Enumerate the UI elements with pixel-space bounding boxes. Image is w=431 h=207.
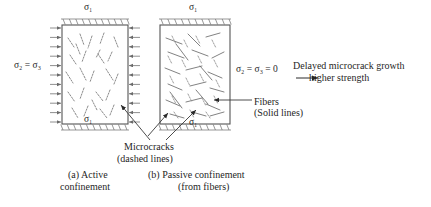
load-tick bbox=[206, 125, 208, 131]
load-tick bbox=[86, 125, 88, 131]
load-tick bbox=[95, 19, 97, 25]
load-tick bbox=[89, 19, 91, 25]
load-tick bbox=[114, 19, 116, 25]
caption-b-line1: (b) Passive confinement bbox=[148, 169, 245, 180]
higher-strength-label: higher strength bbox=[309, 72, 369, 83]
load-tick bbox=[168, 19, 170, 25]
load-tick bbox=[106, 125, 108, 131]
load-tick bbox=[186, 125, 188, 131]
sigma23-label-b: σ₂ = σ₃ = 0 bbox=[236, 64, 278, 74]
sigma1-top-label-b: σ₁ bbox=[189, 2, 197, 12]
load-tick bbox=[121, 19, 123, 25]
load-tick bbox=[161, 19, 163, 25]
load-tick bbox=[213, 125, 215, 131]
load-tick bbox=[125, 125, 127, 131]
sigma1-bottom-label-b: σ₁ bbox=[189, 117, 197, 127]
caption-a-line2: confinement bbox=[60, 181, 110, 192]
caption-b-line2: (from fibers) bbox=[178, 181, 229, 192]
sigma1-top-label-a: σ₁ bbox=[84, 2, 92, 12]
load-tick bbox=[61, 125, 63, 131]
load-tick bbox=[166, 125, 168, 131]
load-tick bbox=[229, 19, 231, 25]
load-tick bbox=[82, 19, 84, 25]
load-tick bbox=[93, 125, 95, 131]
load-tick bbox=[69, 19, 71, 25]
microcracks-sublabel: (dashed lines) bbox=[117, 153, 173, 164]
fibers-sublabel: (Solid lines) bbox=[254, 107, 303, 118]
load-tick bbox=[195, 19, 197, 25]
delayed-growth-label: Delayed microcrack growth bbox=[293, 60, 405, 71]
lateral-confinement-right-a bbox=[129, 28, 140, 122]
fibers-label: Fibers bbox=[254, 96, 279, 107]
load-tick bbox=[112, 125, 114, 131]
microcracks-label: Microcracks bbox=[124, 141, 174, 152]
load-tick bbox=[181, 19, 183, 25]
load-tick bbox=[101, 19, 103, 25]
panel-a-active-confinement bbox=[50, 19, 140, 130]
load-tick bbox=[209, 19, 211, 25]
axial-load-bottom-a bbox=[61, 125, 129, 131]
load-tick bbox=[200, 125, 202, 131]
load-tick bbox=[159, 125, 161, 131]
load-tick bbox=[202, 19, 204, 25]
load-tick bbox=[99, 125, 101, 131]
load-tick bbox=[80, 125, 82, 131]
load-tick bbox=[74, 125, 76, 131]
load-tick bbox=[175, 19, 177, 25]
load-tick bbox=[76, 19, 78, 25]
load-tick bbox=[108, 19, 110, 25]
load-tick bbox=[188, 19, 190, 25]
panel-b-passive-confinement bbox=[159, 19, 231, 130]
sigma1-bottom-label-a: σ₁ bbox=[84, 114, 92, 124]
load-tick bbox=[172, 125, 174, 131]
sigma23-label-a: σ₂ = σ₃ bbox=[14, 60, 41, 70]
load-tick bbox=[222, 19, 224, 25]
load-tick bbox=[220, 125, 222, 131]
caption-a-line1: (a) Active bbox=[68, 169, 108, 180]
load-tick bbox=[118, 125, 120, 131]
load-tick bbox=[215, 19, 217, 25]
lateral-confinement-left-a bbox=[50, 28, 61, 122]
axial-load-top-b bbox=[159, 19, 231, 25]
axial-load-top-a bbox=[61, 19, 129, 25]
load-tick bbox=[127, 19, 129, 25]
load-tick bbox=[63, 19, 65, 25]
load-tick bbox=[67, 125, 69, 131]
load-tick bbox=[227, 125, 229, 131]
